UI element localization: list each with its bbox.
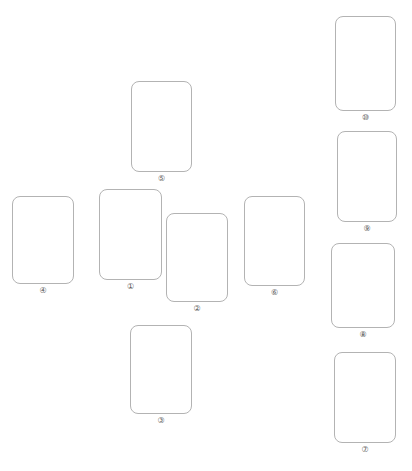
card-label-10: ⑩ xyxy=(335,113,396,123)
card-10[interactable] xyxy=(335,16,396,111)
diagram-canvas: ①②③④⑤⑥⑦⑧⑨⑩ xyxy=(0,0,412,471)
card-group-10: ⑩ xyxy=(0,0,412,471)
